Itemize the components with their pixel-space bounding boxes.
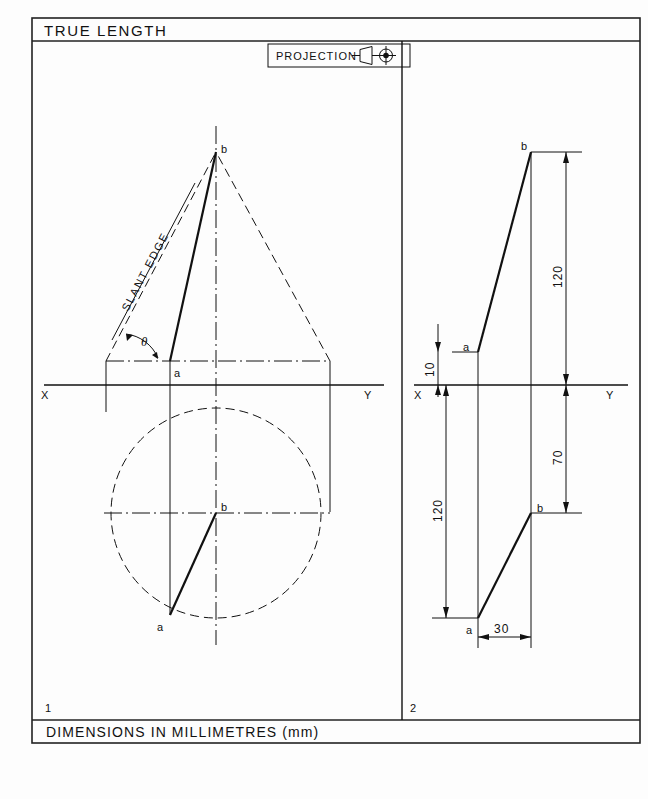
view1-right-slant-construction — [216, 152, 330, 361]
footer-note: DIMENSIONS IN MILLIMETRES (mm) — [46, 724, 319, 740]
view2-dimension-30-horizontal: 30 — [478, 622, 531, 640]
page-title: TRUE LENGTH — [44, 22, 167, 39]
view2-dim70-arrow-bottom — [563, 502, 569, 513]
view2-dim10-value: 10 — [423, 362, 437, 377]
view1-angle-label-theta: θ — [141, 334, 148, 349]
view1-x-label: X — [41, 389, 49, 401]
projection-label: PROJECTION — [276, 50, 357, 62]
view2-dim10-arrow-top — [435, 342, 441, 352]
view2-dim120d-arrow-top — [443, 385, 449, 396]
technical-drawing-canvas: TRUE LENGTH DIMENSIONS IN MILLIMETRES (m… — [0, 0, 648, 799]
view2-dim120h-arrow-bottom — [563, 374, 569, 385]
view2-plan-label-b: b — [537, 502, 543, 514]
view1-true-length-line-ab — [170, 152, 216, 361]
view2-y-label: Y — [606, 389, 614, 401]
view1-slant-edge-label: SLANT EDGE — [119, 230, 171, 313]
view2-dim120d-value: 120 — [431, 499, 445, 522]
projection-box: PROJECTION — [268, 44, 410, 67]
view1-angle-arrow-start — [126, 334, 133, 341]
view2-dim30-value: 30 — [494, 622, 509, 636]
view1-plan-radius-ba — [170, 513, 216, 615]
view2-dim70-arrow-top — [563, 385, 569, 396]
view2-dimension-120-height: 120 — [531, 152, 582, 385]
view2-dim70-value: 70 — [551, 450, 565, 465]
drawing-sheet: TRUE LENGTH DIMENSIONS IN MILLIMETRES (m… — [0, 0, 648, 799]
view2-dim120h-arrow-top — [563, 152, 569, 163]
view1-base-label-a: a — [174, 367, 181, 379]
first-angle-projection-symbol — [352, 46, 396, 65]
view-2-group: X Y b a b a 120 10 — [410, 140, 628, 714]
view2-elevation-label-a: a — [463, 341, 470, 353]
view1-apex-label-b: b — [221, 143, 227, 155]
view-1-group: X Y b a SLANT EDGE θ — [41, 126, 384, 714]
view2-dim10-arrow-bottom — [435, 385, 441, 395]
view1-left-slant-construction — [106, 152, 216, 361]
view2-dim30-arrow-right — [520, 634, 531, 640]
view1-plan-label-b: b — [221, 501, 227, 513]
view2-dimension-120-depth: 120 — [431, 385, 478, 618]
view1-number: 1 — [45, 702, 51, 714]
view2-x-label: X — [414, 389, 422, 401]
view2-dimension-10-offset: 10 — [423, 324, 478, 397]
view1-y-label: Y — [364, 389, 372, 401]
sheet-border — [32, 18, 640, 743]
view2-dimension-70-depth: 70 — [531, 385, 582, 513]
view2-elevation-label-b: b — [521, 140, 527, 152]
view2-dim120h-value: 120 — [551, 265, 565, 288]
view2-plan-line-ab — [478, 513, 531, 618]
view2-dim30-arrow-left — [478, 634, 489, 640]
view2-elevation-line-ab — [478, 152, 531, 352]
view1-plan-label-a: a — [157, 621, 164, 633]
view2-dim120d-arrow-bottom — [443, 607, 449, 618]
view2-plan-label-a: a — [466, 624, 473, 636]
view2-number: 2 — [410, 702, 416, 714]
